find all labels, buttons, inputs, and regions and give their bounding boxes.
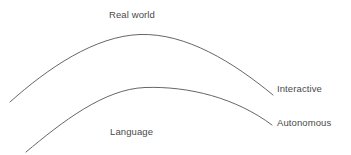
- diagram-canvas: Real world Language Interactive Autonomo…: [0, 0, 351, 155]
- label-interactive: Interactive: [277, 83, 322, 95]
- label-autonomous: Autonomous: [277, 117, 331, 129]
- label-real-world: Real world: [109, 9, 155, 21]
- upper-curve: [10, 34, 273, 102]
- curve-layer: [0, 0, 351, 155]
- label-language: Language: [110, 126, 153, 138]
- lower-curve: [26, 87, 272, 152]
